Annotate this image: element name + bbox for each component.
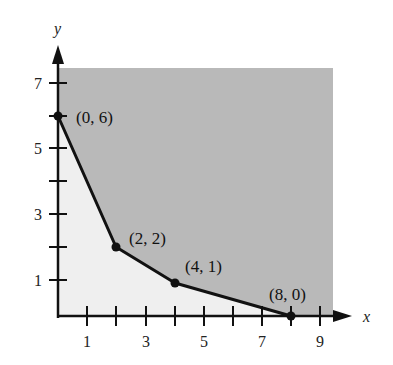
- x-axis-arrow-icon: [333, 310, 352, 322]
- y-tick-label: 1: [34, 272, 42, 289]
- y-tick-label: 7: [34, 75, 42, 92]
- y-axis-arrow-icon: [52, 45, 64, 64]
- point-label: (0, 6): [76, 108, 113, 127]
- x-axis-label: x: [362, 308, 370, 325]
- vertex-point: [171, 279, 180, 288]
- y-tick-label: 5: [34, 140, 42, 157]
- point-label: (8, 0): [269, 285, 306, 304]
- x-tick-label: 5: [200, 333, 208, 350]
- x-tick-label: 9: [316, 333, 324, 350]
- point-label: (2, 2): [129, 229, 166, 248]
- y-tick-label: 3: [34, 206, 42, 223]
- y-axis-label: y: [52, 20, 62, 38]
- vertex-point: [112, 243, 121, 252]
- point-label: (4, 1): [185, 257, 222, 276]
- chart: 7 5 3 1 1 3 5 7 9 y x (0, 6) (2, 2) (4, …: [0, 0, 393, 365]
- x-tick-label: 7: [258, 333, 266, 350]
- vertex-point: [54, 112, 63, 121]
- vertex-point: [287, 312, 296, 321]
- x-tick-label: 1: [83, 333, 91, 350]
- x-tick-label: 3: [142, 333, 150, 350]
